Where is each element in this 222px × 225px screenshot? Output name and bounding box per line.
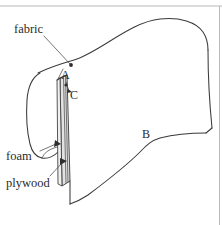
fabric-bottom-hem <box>70 133 206 204</box>
plywood-slab <box>57 75 70 204</box>
fabric-marker-dot <box>69 63 73 67</box>
fabric-bottom-right-corner <box>206 128 212 133</box>
point-c-dot <box>64 83 67 86</box>
figure-frame <box>0 6 222 225</box>
fabric-leader-line <box>44 36 70 64</box>
label-point-a: A <box>61 69 70 81</box>
figure-container: fabric foam plywood A C B <box>0 0 222 225</box>
label-point-b: B <box>142 128 150 140</box>
label-foam: foam <box>6 150 32 163</box>
label-plywood: plywood <box>6 177 50 190</box>
foam-bottom-hook <box>42 152 58 158</box>
fabric-top-edge <box>38 19 208 73</box>
foam-leader-line <box>40 144 56 151</box>
fabric-leader <box>44 36 73 67</box>
label-fabric: fabric <box>14 23 43 36</box>
foam-outer-curve <box>27 73 42 158</box>
fabric-right-edge <box>208 50 212 128</box>
label-point-c: C <box>70 89 78 101</box>
